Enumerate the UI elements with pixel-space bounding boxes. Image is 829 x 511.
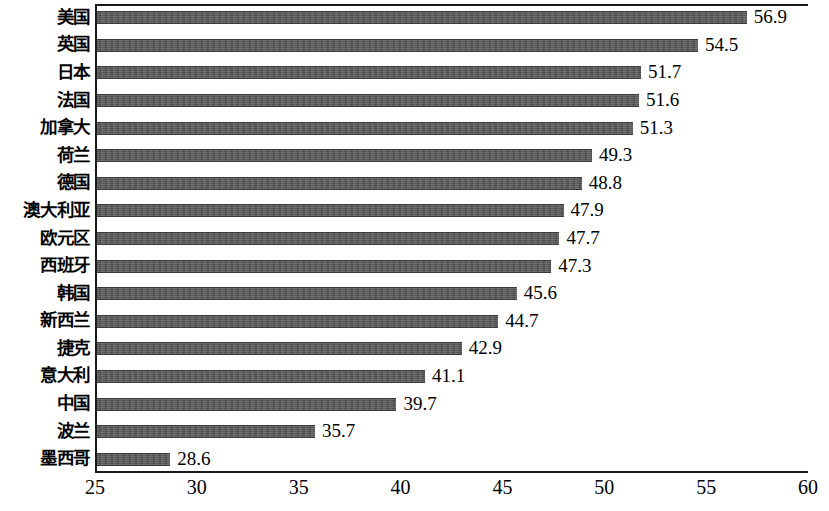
bar-row: 47.7	[97, 232, 810, 245]
bar	[97, 260, 551, 273]
category-axis-labels: 美国英国日本法国加拿大荷兰德国澳大利亚欧元区西班牙韩国新西兰捷克意大利中国波兰墨…	[0, 4, 90, 473]
bar-row: 35.7	[97, 425, 810, 438]
x-tick-label: 60	[798, 475, 818, 499]
bar-row: 47.3	[97, 260, 810, 273]
x-tick-label: 25	[85, 475, 105, 499]
category-label: 意大利	[0, 366, 90, 385]
bar-chart: 美国英国日本法国加拿大荷兰德国澳大利亚欧元区西班牙韩国新西兰捷克意大利中国波兰墨…	[0, 0, 829, 511]
bar-row: 54.5	[97, 39, 810, 52]
bar-value-label: 47.7	[566, 228, 599, 248]
category-label: 法国	[0, 91, 90, 110]
x-tick-label: 45	[492, 475, 512, 499]
bar-value-label: 41.1	[432, 366, 465, 386]
bar	[97, 342, 462, 355]
category-label: 美国	[0, 8, 90, 27]
bar-row: 51.6	[97, 94, 810, 107]
plot-top-border	[95, 4, 808, 6]
x-axis-line	[95, 471, 808, 473]
category-label: 西班牙	[0, 256, 90, 275]
bar-value-label: 54.5	[705, 35, 738, 55]
bar-value-label: 51.7	[648, 62, 681, 82]
bar-value-label: 49.3	[599, 145, 632, 165]
bar-row: 42.9	[97, 342, 810, 355]
x-tick-label: 50	[594, 475, 614, 499]
bar-row: 51.3	[97, 122, 810, 135]
bar-value-label: 47.3	[558, 256, 591, 276]
category-label: 荷兰	[0, 146, 90, 165]
bar-row: 39.7	[97, 398, 810, 411]
bar-value-label: 56.9	[754, 7, 787, 27]
bar	[97, 232, 559, 245]
category-label: 墨西哥	[0, 449, 90, 468]
bar	[97, 11, 747, 24]
bar-row: 41.1	[97, 370, 810, 383]
bar	[97, 66, 641, 79]
x-axis-tick-labels: 2530354045505560	[0, 475, 829, 511]
bar-value-label: 48.8	[589, 173, 622, 193]
category-label: 中国	[0, 394, 90, 413]
bar	[97, 94, 639, 107]
bar-value-label: 42.9	[469, 338, 502, 358]
x-tick-label: 40	[391, 475, 411, 499]
bar	[97, 370, 425, 383]
bar-value-label: 51.3	[640, 118, 673, 138]
bar	[97, 204, 564, 217]
bar	[97, 122, 633, 135]
category-label: 捷克	[0, 339, 90, 358]
x-tick-label: 35	[289, 475, 309, 499]
category-label: 加拿大	[0, 118, 90, 137]
category-label: 日本	[0, 63, 90, 82]
bar-row: 44.7	[97, 315, 810, 328]
category-label: 英国	[0, 35, 90, 54]
bar-value-label: 35.7	[322, 421, 355, 441]
category-label: 德国	[0, 173, 90, 192]
bar	[97, 177, 582, 190]
category-label: 澳大利亚	[0, 201, 90, 220]
bar	[97, 39, 698, 52]
bar-row: 47.9	[97, 204, 810, 217]
x-tick-label: 55	[696, 475, 716, 499]
bar-row: 49.3	[97, 149, 810, 162]
bar-value-label: 44.7	[505, 311, 538, 331]
plot-area: 56.954.551.751.651.349.348.847.947.747.3…	[95, 4, 808, 473]
x-tick-label: 30	[187, 475, 207, 499]
bar	[97, 287, 517, 300]
bar-row: 56.9	[97, 11, 810, 24]
bar	[97, 315, 498, 328]
bar-value-label: 47.9	[571, 200, 604, 220]
category-label: 韩国	[0, 284, 90, 303]
bar-row: 45.6	[97, 287, 810, 300]
bar	[97, 149, 592, 162]
category-label: 欧元区	[0, 229, 90, 248]
category-label: 新西兰	[0, 311, 90, 330]
bar	[97, 453, 170, 466]
bar-row: 51.7	[97, 66, 810, 79]
bar-value-label: 51.6	[646, 90, 679, 110]
bar	[97, 398, 396, 411]
bar-value-label: 39.7	[403, 394, 436, 414]
bar-value-label: 28.6	[177, 449, 210, 469]
bar-row: 28.6	[97, 453, 810, 466]
bar	[97, 425, 315, 438]
bar-row: 48.8	[97, 177, 810, 190]
category-label: 波兰	[0, 422, 90, 441]
bar-value-label: 45.6	[524, 283, 557, 303]
